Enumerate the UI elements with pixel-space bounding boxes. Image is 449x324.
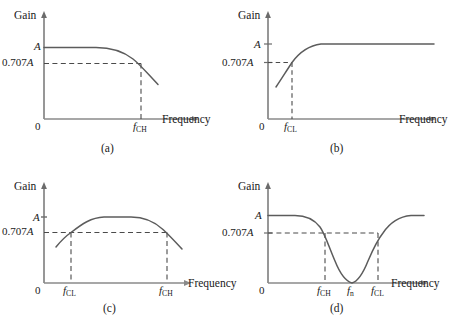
xtick-fcl-c: fCL — [63, 285, 76, 296]
y-axis-label-a: Gain — [14, 10, 36, 22]
origin-label-d: 0 — [259, 285, 265, 296]
y-axis-arrow-d — [265, 182, 271, 189]
gain-A-label-a: A — [34, 41, 41, 52]
gain-A-label-c: A — [33, 212, 40, 223]
gain-A-label-b: A — [254, 39, 261, 50]
x-axis-label-b: Frequency — [399, 114, 448, 126]
xtick-fcl-d: fCL — [371, 285, 384, 296]
caption-c: (c) — [103, 303, 116, 315]
caption-a: (a) — [101, 143, 114, 155]
y-axis-arrow-b — [265, 11, 271, 18]
caption-d: (d) — [330, 303, 343, 315]
origin-label-b: 0 — [259, 121, 265, 132]
gain-707A-label-d: 0.707A — [222, 227, 253, 238]
y-axis-arrow-a — [41, 11, 47, 18]
response-curve-a — [44, 48, 158, 85]
gain-707A-label-b: 0.707A — [222, 57, 253, 68]
xtick-fch-a: fCH — [133, 121, 147, 132]
response-curve-b — [276, 44, 434, 87]
xtick-fcl-b: fCL — [284, 121, 297, 132]
y-axis-arrow-c — [41, 182, 47, 189]
chart-a-svg — [0, 0, 224, 162]
caption-b: (b) — [330, 143, 343, 155]
filter-response-figure: Gain Frequency A 0.707A 0 fCH (a) Gain F… — [0, 0, 449, 324]
y-axis-label-c: Gain — [14, 181, 36, 193]
chart-b-svg — [225, 0, 449, 162]
chart-panel-c: Gain Frequency A 0.707A 0 fCL fCH (c) — [0, 162, 224, 324]
chart-panel-a: Gain Frequency A 0.707A 0 fCH (a) — [0, 0, 224, 162]
xtick-fn-d: fn — [347, 285, 354, 296]
origin-label-a: 0 — [35, 121, 41, 132]
gain-707A-label-c: 0.707A — [2, 226, 33, 237]
x-axis-label-a: Frequency — [162, 114, 211, 126]
response-curve-d — [268, 216, 424, 284]
gain-707A-label-a: 0.707A — [2, 57, 33, 68]
chart-panel-b: Gain Frequency A 0.707A 0 fCL (b) — [225, 0, 449, 162]
xtick-fch-d: fCH — [317, 285, 331, 296]
y-axis-label-b: Gain — [238, 10, 260, 22]
gain-A-label-d: A — [255, 210, 262, 221]
x-axis-label-d: Frequency — [391, 278, 440, 290]
origin-label-c: 0 — [35, 285, 41, 296]
chart-panel-d: Gain Frequency A 0.707A 0 fCH fn fCL (d) — [225, 162, 449, 324]
xtick-fch-c: fCH — [159, 285, 173, 296]
y-axis-label-d: Gain — [238, 181, 260, 193]
